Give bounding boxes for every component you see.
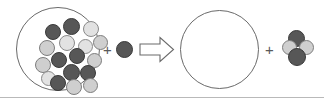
plus-sign-products: + [265,42,274,57]
reactant-particle-1 [45,24,61,40]
reactant-particle-9 [69,48,85,64]
product-vessel-circle [180,10,259,89]
diagram-stage: + + [0,0,324,97]
reactant-particle-17 [83,78,98,93]
reactant-particle-16 [66,79,82,95]
particulate-reaction-diagram: + + [0,0,324,98]
reactant-particle-2 [63,18,80,35]
product-cluster [282,30,316,68]
reaction-arrow [139,36,175,63]
product-cluster-particle-4 [288,48,306,66]
reactant-vessel-circle [16,7,100,91]
reactant-particle-15 [50,75,66,91]
plus-sign-reactants: + [103,42,112,57]
free-reactant-particle [116,41,133,58]
